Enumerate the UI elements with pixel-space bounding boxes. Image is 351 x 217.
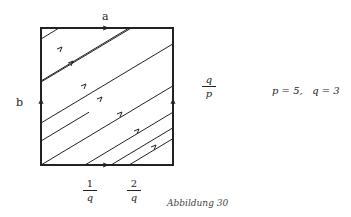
fraction-q-over-p: q p — [202, 74, 216, 99]
label-b: b — [16, 97, 23, 108]
figure-caption: Abbildung 30 — [167, 199, 228, 208]
fraction-1-over-q: 1 q — [83, 178, 97, 203]
params-label: p = 5, q = 3 — [272, 86, 340, 96]
label-a: a — [102, 11, 109, 22]
square-boundary — [41, 28, 173, 165]
fraction-2-over-q: 2 q — [127, 178, 141, 203]
torus-diagram — [0, 0, 351, 217]
